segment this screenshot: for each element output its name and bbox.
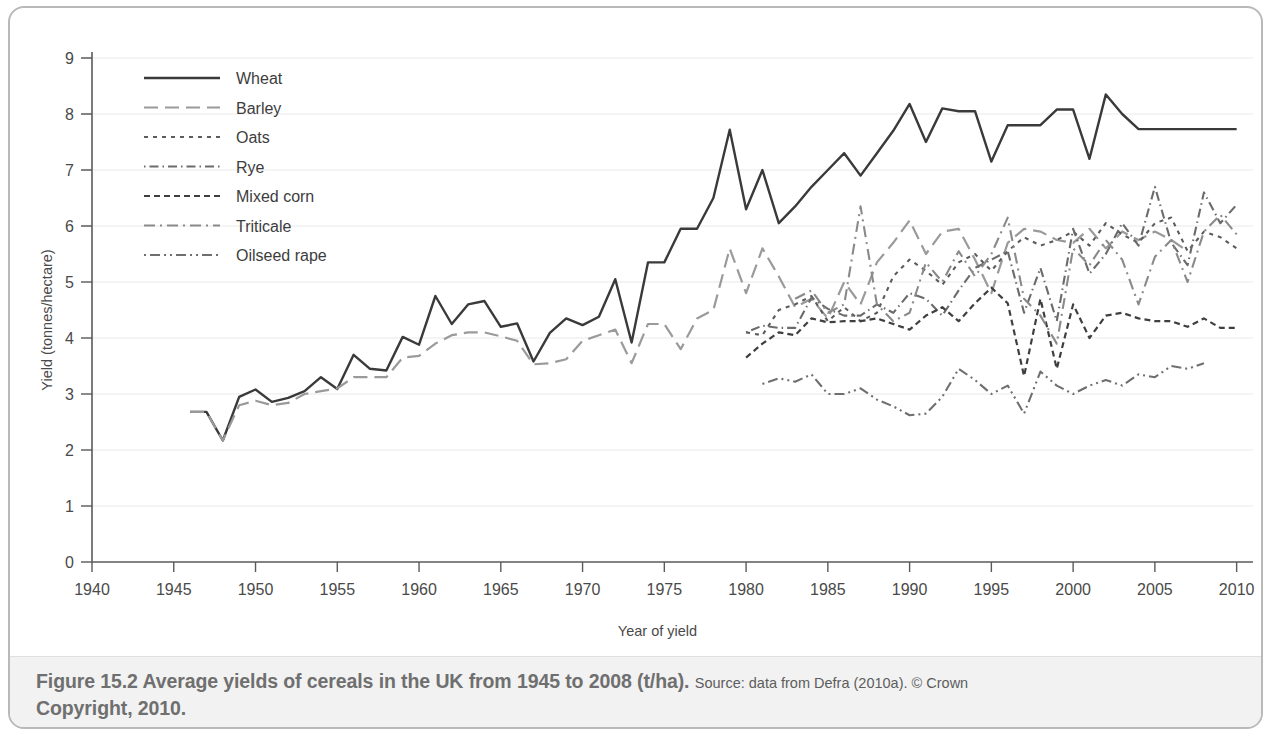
legend-label-oilseed-rape: Oilseed rape: [236, 247, 327, 264]
legend-label-wheat: Wheat: [236, 70, 283, 87]
y-tick-label-8: 8: [65, 106, 74, 123]
series-line-triticale: [795, 206, 1237, 343]
caption-source-text: Source: data from Defra (2010a). © Crown: [695, 675, 968, 691]
x-tick-label-2005: 2005: [1137, 581, 1173, 598]
caption-main-text: Figure 15.2 Average yields of cereals in…: [36, 670, 689, 692]
legend-label-barley: Barley: [236, 100, 281, 117]
x-tick-label-1960: 1960: [401, 581, 437, 598]
x-tick-label-1965: 1965: [483, 581, 519, 598]
x-tick-label-1950: 1950: [238, 581, 274, 598]
figure-frame: 0123456789194019451950195519601965197019…: [8, 6, 1263, 729]
caption-first-line: Figure 15.2 Average yields of cereals in…: [36, 669, 1235, 696]
x-tick-label-1975: 1975: [647, 581, 683, 598]
x-tick-label-1995: 1995: [974, 581, 1010, 598]
x-tick-label-2000: 2000: [1055, 581, 1091, 598]
x-tick-label-1985: 1985: [810, 581, 846, 598]
x-tick-label-2010: 2010: [1219, 581, 1255, 598]
x-tick-label-1955: 1955: [319, 581, 355, 598]
x-tick-label-1945: 1945: [156, 581, 192, 598]
y-tick-label-3: 3: [65, 386, 74, 403]
legend-label-triticale: Triticale: [236, 218, 292, 235]
x-tick-label-1970: 1970: [565, 581, 601, 598]
caption-tail-text: Copyright, 2010.: [36, 697, 186, 719]
legend-label-oats: Oats: [236, 129, 270, 146]
x-axis-title: Year of yield: [618, 623, 697, 639]
y-tick-label-0: 0: [65, 554, 74, 571]
figure-caption: Figure 15.2 Average yields of cereals in…: [10, 656, 1261, 727]
y-tick-label-4: 4: [65, 330, 74, 347]
x-tick-label-1940: 1940: [74, 581, 110, 598]
chart-plot-area: 0123456789194019451950195519601965197019…: [10, 8, 1261, 656]
x-tick-label-1990: 1990: [892, 581, 928, 598]
cereal-yields-line-chart: 0123456789194019451950195519601965197019…: [10, 8, 1261, 656]
y-tick-label-9: 9: [65, 50, 74, 67]
y-axis-title: Yield (tonnes/hectare): [39, 249, 55, 390]
y-tick-label-7: 7: [65, 162, 74, 179]
series-line-rye: [746, 187, 1237, 333]
series-line-wheat: [190, 94, 1237, 440]
series-line-barley: [190, 220, 1187, 440]
caption-second-line: Copyright, 2010.: [36, 696, 1235, 721]
y-tick-label-5: 5: [65, 274, 74, 291]
y-tick-label-6: 6: [65, 218, 74, 235]
y-tick-label-1: 1: [65, 498, 74, 515]
x-tick-label-1980: 1980: [728, 581, 764, 598]
legend-label-rye: Rye: [236, 159, 265, 176]
series-line-oilseed-rape: [762, 363, 1203, 415]
y-tick-label-2: 2: [65, 442, 74, 459]
legend-label-mixed-corn: Mixed corn: [236, 188, 314, 205]
